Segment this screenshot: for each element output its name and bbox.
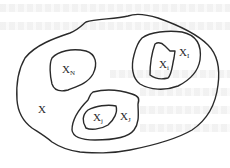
label-xI: XI [179,47,189,60]
label-xJ-sub: J [128,116,131,124]
label-xi-sub: i [167,64,169,72]
label-xi: Xi [159,59,169,72]
label-xJ-main: X [120,110,128,122]
region-outer-x [17,14,219,153]
label-x: X [38,104,46,115]
label-xi-main: X [159,58,167,70]
label-xI-main: X [179,46,187,58]
label-x-main: X [38,103,46,115]
label-xI-sub: I [187,52,189,60]
label-xj: Xj [93,112,103,125]
label-xn-sub: N [70,69,75,77]
label-xj-sub: j [101,117,103,125]
label-xj-main: X [93,111,101,123]
label-xn: XN [62,64,75,77]
label-xJ: XJ [120,111,131,124]
set-diagram [0,0,230,168]
label-xn-main: X [62,63,70,75]
